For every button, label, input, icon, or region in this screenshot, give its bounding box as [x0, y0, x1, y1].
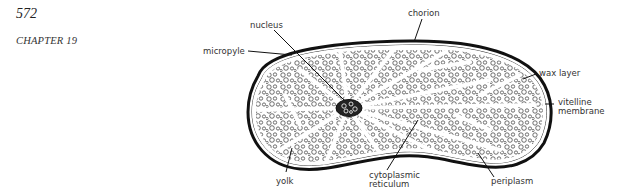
nucleus-shape: [336, 100, 362, 117]
label-chorion: chorion: [408, 8, 440, 18]
label-vitelline-line2: membrane: [558, 106, 605, 116]
label-nucleus: nucleus: [250, 20, 283, 30]
label-yolk: yolk: [276, 176, 294, 186]
egg-diagram: [0, 0, 630, 189]
label-wax-layer: wax layer: [539, 68, 580, 78]
label-micropyle: micropyle: [203, 46, 245, 56]
label-cytoplasmic-line2: reticulum: [369, 179, 409, 189]
label-periplasm: periplasm: [491, 176, 533, 186]
